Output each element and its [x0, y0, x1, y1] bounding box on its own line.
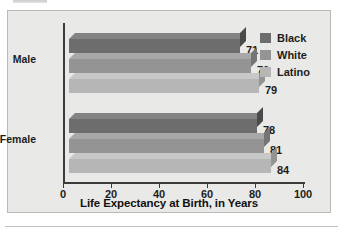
- bar-female-white: [69, 139, 264, 153]
- value-label-male-latino: 79: [265, 84, 277, 96]
- category-label-female: Female: [0, 133, 36, 145]
- bar-front-face: [69, 119, 257, 133]
- bar-male-white: [69, 59, 251, 73]
- legend-label-latino: Latino: [277, 66, 310, 78]
- chart-frame: 0 20 40 60 80 100 Male Female 71 76 79: [7, 10, 331, 213]
- bar-female-latino: [69, 159, 271, 173]
- cropped-tab-artifact: [13, 0, 47, 3]
- bar-male-black: [69, 39, 240, 53]
- value-label-female-latino: 84: [277, 164, 289, 176]
- x-axis-title: Life Expectancy at Birth, in Years: [8, 197, 330, 209]
- category-label-male: Male: [13, 53, 36, 65]
- legend-item-latino[interactable]: Latino: [260, 64, 310, 79]
- bar-front-face: [69, 39, 240, 53]
- chart-legend: Black White Latino: [260, 30, 310, 81]
- legend-item-white[interactable]: White: [260, 47, 310, 62]
- bar-female-black: [69, 119, 257, 133]
- legend-label-white: White: [277, 49, 307, 61]
- bar-front-face: [69, 159, 271, 173]
- plot-area: 0 20 40 60 80 100 Male Female 71 76 79: [8, 11, 330, 212]
- bar-front-face: [69, 79, 259, 93]
- x-axis-line: [63, 182, 305, 184]
- legend-swatch-black-icon: [260, 33, 271, 43]
- legend-swatch-latino-icon: [260, 67, 271, 77]
- legend-label-black: Black: [277, 32, 306, 44]
- bar-front-face: [69, 59, 251, 73]
- bar-front-face: [69, 139, 264, 153]
- bar-male-latino: [69, 79, 259, 93]
- bottom-divider: [5, 226, 338, 227]
- legend-item-black[interactable]: Black: [260, 30, 310, 45]
- y-axis-line: [63, 23, 65, 183]
- legend-swatch-white-icon: [260, 50, 271, 60]
